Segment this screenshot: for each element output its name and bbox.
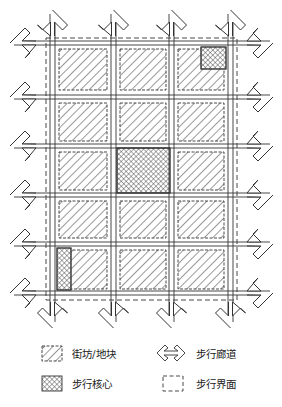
legend-label-block: 街坊/地块 [72,348,117,360]
hatched-block-icon [42,346,62,361]
block-r4-c3 [178,201,224,238]
arrowheads-right [247,28,273,308]
crosshatch-block-icon [42,376,62,391]
arrowheads-bottom [38,302,246,328]
arrow-left-icon [10,131,36,161]
arrow-up-icon [38,10,68,36]
arrow-right-icon [247,180,273,210]
arrow-right-icon [247,229,273,259]
block-r4-c1 [59,201,107,238]
arrow-down-icon [216,302,246,328]
legend-item-core: 步行核心 [42,376,113,391]
arrowheads-top [38,10,246,36]
arrow-left-icon [10,229,36,259]
legend-label-interface: 步行界面 [196,378,236,390]
block-r2-c2 [120,103,166,141]
legend-item-block: 街坊/地块 [42,346,117,361]
block-r1-c1 [59,49,107,90]
arrow-up-icon [99,10,129,36]
legend: 街坊/地块 步行廊道 步行核心 步行界面 [42,345,237,391]
arrowheads-left [10,28,36,308]
arrow-down-icon [38,302,68,328]
block-r3-c3 [178,152,224,190]
dashed-box-icon [163,376,183,391]
block-r2-c3 [178,103,224,141]
arrow-left-icon [10,82,36,112]
arrow-right-icon [247,278,273,308]
block-r2-c1 [59,103,107,141]
arrow-up-icon [157,10,187,36]
block-r4-c2 [120,201,166,238]
arrow-down-icon [99,302,129,328]
double-arrow-icon [157,345,185,361]
legend-item-interface: 步行界面 [163,376,236,391]
arrow-right-icon [247,28,273,58]
block-r1-c2 [120,49,166,90]
legend-label-corridor: 步行廊道 [196,348,237,360]
block-r5-c3 [178,250,224,289]
legend-label-core: 步行核心 [72,378,113,390]
arrow-left-icon [10,278,36,308]
arrow-up-icon [216,10,246,36]
arrow-right-icon [247,131,273,161]
arrow-right-icon [247,82,273,112]
arrow-left-icon [10,28,36,58]
block-r3-c1 [59,152,107,190]
block-r5-c2 [120,250,166,289]
legend-item-corridor: 步行廊道 [157,345,237,361]
arrow-left-icon [10,180,36,210]
pedestrian-network-diagram: 街坊/地块 步行廊道 步行核心 步行界面 [0,0,282,407]
arrow-down-icon [157,302,187,328]
